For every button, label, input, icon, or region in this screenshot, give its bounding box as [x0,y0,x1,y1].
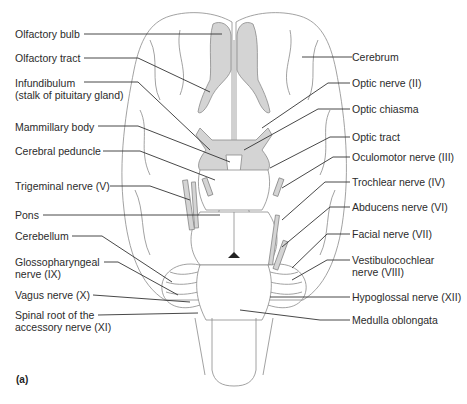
medulla-shape [197,265,272,320]
label-trochlear-nerve: Trochlear nerve (IV) [352,176,445,188]
label-vagus-nerve: Vagus nerve (X) [15,289,90,301]
label-optic-chiasma: Optic chiasma [352,103,419,115]
panel-label: (a) [16,374,28,385]
label-olfactory-tract: Olfactory tract [15,52,80,64]
right-cerebellum [268,264,306,308]
label-glossopharyngeal-nerve: Glossopharyngealnerve (IX) [15,256,100,280]
label-optic-nerve: Optic nerve (II) [352,77,421,89]
right-olfactory-bulb-tract [237,22,270,112]
label-cerebral-peduncle: Cerebral peduncle [15,145,101,157]
label-mammillary-body: Mammillary body [15,121,94,133]
label-medulla-oblongata: Medulla oblongata [352,314,438,326]
label-cerebellum: Cerebellum [15,230,69,242]
left-olfactory-bulb-tract [198,22,231,112]
label-olfactory-bulb: Olfactory bulb [15,28,80,40]
spinal-cord [212,318,256,386]
label-spinal-root-accessory-nerve: Spinal root of theaccessory nerve (XI) [15,309,111,333]
label-cerebrum: Cerebrum [352,51,399,63]
label-pons: Pons [15,209,39,221]
label-vestibulocochlear-nerve: Vestibulocochlearnerve (VIII) [352,254,434,278]
label-infundibulum: Infundibulum(stalk of pituitary gland) [15,77,124,101]
label-facial-nerve: Facial nerve (VII) [352,228,432,240]
label-oculomotor-nerve: Oculomotor nerve (III) [352,151,454,163]
label-trigeminal-nerve: Trigeminal nerve (V) [15,180,110,192]
label-hypoglossal-nerve: Hypoglossal nerve (XII) [352,291,461,303]
label-abducens-nerve: Abducens nerve (VI) [352,201,448,213]
label-optic-tract: Optic tract [352,131,400,143]
